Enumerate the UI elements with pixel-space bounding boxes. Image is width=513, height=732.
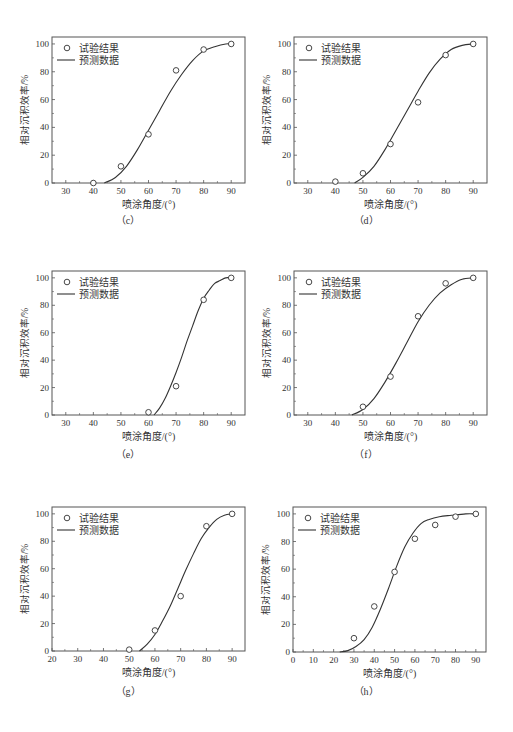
x-tick-label: 60 (144, 418, 154, 428)
legend-label-line: 预测数据 (321, 54, 361, 66)
caption-e: （e） (0, 446, 256, 461)
caption-h: （h） (238, 683, 494, 698)
y-axis-label: 相对沉积效率/% (19, 544, 30, 615)
x-tick-label: 50 (116, 186, 126, 196)
legend-marker-icon (306, 279, 312, 285)
y-tick-label: 100 (36, 509, 50, 519)
x-tick-label: 50 (116, 418, 126, 428)
y-tick-label: 40 (40, 591, 50, 601)
data-point-marker (126, 647, 132, 653)
y-tick-label: 0 (45, 410, 50, 420)
y-tick-label: 60 (281, 564, 291, 574)
data-point-marker (173, 68, 179, 74)
chart-panel-h: 0102030405060708090020406080100喷涂角度/(°)相… (256, 490, 512, 732)
y-tick-label: 60 (282, 95, 292, 105)
x-tick-label: 50 (358, 186, 368, 196)
x-tick-label: 90 (469, 186, 479, 196)
data-point-marker (228, 275, 234, 281)
legend-marker-icon (306, 45, 312, 51)
caption-c: （c） (0, 212, 256, 227)
data-point-marker (91, 180, 97, 186)
legend-label-points: 试验结果 (321, 42, 361, 54)
data-point-marker (146, 132, 152, 138)
x-tick-label: 30 (349, 655, 359, 665)
chart-panel-f: 30405060708090020406080100喷涂角度/(°)相对沉积效率… (256, 230, 512, 490)
data-point-marker (443, 281, 449, 287)
x-axis-label: 喷涂角度/(°) (122, 430, 175, 443)
x-tick-label: 40 (331, 418, 341, 428)
x-tick-label: 70 (172, 418, 182, 428)
x-tick-label: 40 (89, 186, 99, 196)
y-tick-label: 40 (40, 355, 50, 365)
legend-label-line: 预测数据 (79, 524, 119, 536)
legend-label-line: 预测数据 (320, 524, 360, 536)
data-point-marker (229, 511, 235, 517)
predicted-curve (154, 278, 231, 415)
x-tick-label: 80 (441, 418, 451, 428)
data-point-marker (415, 313, 421, 319)
x-tick-label: 40 (370, 655, 380, 665)
y-tick-label: 80 (40, 536, 50, 546)
x-tick-label: 50 (125, 654, 135, 664)
x-tick-label: 90 (471, 655, 481, 665)
x-tick-label: 70 (172, 186, 182, 196)
y-tick-label: 60 (40, 95, 50, 105)
caption-g: （g） (0, 683, 256, 698)
y-axis-label: 相对沉积效率/% (260, 544, 271, 615)
y-tick-label: 0 (287, 178, 292, 188)
data-point-marker (443, 52, 449, 58)
y-tick-label: 80 (40, 300, 50, 310)
data-point-marker (388, 141, 394, 147)
legend-marker-icon (64, 515, 70, 521)
x-tick-label: 40 (99, 654, 109, 664)
x-tick-label: 60 (386, 418, 396, 428)
y-tick-label: 0 (45, 646, 50, 656)
legend-marker-icon (305, 515, 311, 521)
data-point-marker (392, 569, 398, 575)
x-tick-label: 60 (386, 186, 396, 196)
x-tick-label: 40 (89, 418, 99, 428)
x-tick-label: 60 (410, 655, 420, 665)
y-axis-label: 相对沉积效率/% (261, 75, 272, 146)
caption-f: （f） (238, 446, 494, 461)
x-tick-label: 80 (441, 186, 451, 196)
data-point-marker (360, 170, 366, 176)
data-point-marker (201, 47, 207, 53)
legend-label-line: 预测数据 (79, 288, 119, 300)
x-tick-label: 90 (228, 654, 238, 664)
y-tick-label: 100 (278, 273, 292, 283)
data-point-marker (360, 404, 366, 410)
legend-label-points: 试验结果 (79, 276, 119, 288)
chart-h: 0102030405060708090020406080100喷涂角度/(°)相… (256, 490, 513, 690)
x-tick-label: 80 (451, 655, 461, 665)
caption-d: （d） (238, 212, 494, 227)
y-axis-label: 相对沉积效率/% (19, 75, 30, 146)
y-tick-label: 100 (277, 509, 291, 519)
data-point-marker (470, 275, 476, 281)
y-tick-label: 0 (286, 647, 291, 657)
y-axis-label: 相对沉积效率/% (19, 308, 30, 379)
x-tick-label: 10 (309, 655, 319, 665)
y-tick-label: 20 (40, 383, 50, 393)
x-tick-label: 50 (358, 418, 368, 428)
y-tick-label: 80 (281, 537, 291, 547)
x-tick-label: 70 (414, 186, 424, 196)
x-axis-label: 喷涂角度/(°) (122, 666, 175, 679)
x-axis-label: 喷涂角度/(°) (364, 198, 417, 211)
y-tick-label: 20 (40, 150, 50, 160)
chart-e: 30405060708090020406080100喷涂角度/(°)相对沉积效率… (0, 230, 256, 450)
y-tick-label: 20 (281, 619, 291, 629)
data-point-marker (173, 383, 179, 389)
y-tick-label: 0 (287, 410, 292, 420)
x-tick-label: 90 (469, 418, 479, 428)
x-tick-label: 90 (227, 418, 237, 428)
chart-panel-c: 30405060708090020406080100喷涂角度/(°)相对沉积效率… (0, 0, 256, 230)
y-tick-label: 80 (282, 67, 292, 77)
x-tick-label: 80 (199, 418, 209, 428)
data-point-marker (432, 522, 438, 528)
data-point-marker (453, 514, 459, 520)
y-tick-label: 20 (40, 619, 50, 629)
y-tick-label: 60 (40, 564, 50, 574)
x-tick-label: 30 (303, 418, 313, 428)
chart-f: 30405060708090020406080100喷涂角度/(°)相对沉积效率… (256, 230, 513, 450)
